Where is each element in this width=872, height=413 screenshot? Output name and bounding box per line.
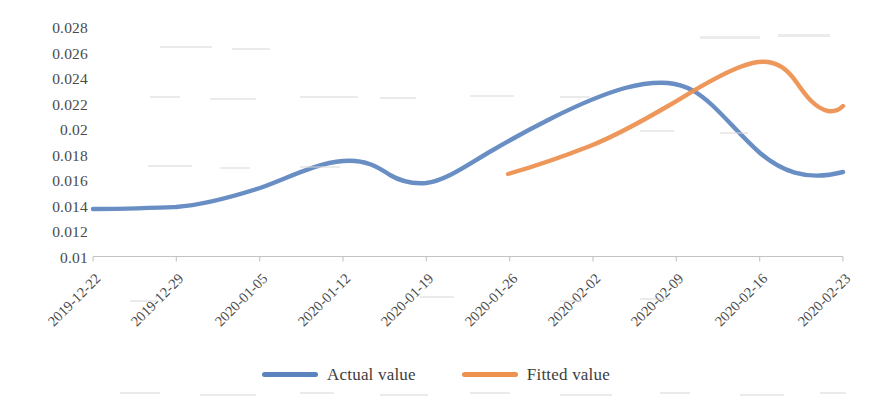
legend-item-fitted-value[interactable]: Fitted value — [462, 366, 610, 383]
legend-swatch-line-icon — [462, 372, 518, 377]
chart-legend: Actual value Fitted value — [0, 366, 872, 383]
line-chart: 0.028 0.026 0.024 0.022 0.02 0.018 0.016… — [0, 0, 872, 413]
legend-swatch-line-icon — [262, 372, 318, 377]
legend-label: Actual value — [327, 366, 416, 383]
legend-label: Fitted value — [527, 366, 610, 383]
x-axis-tick-labels: 2019-12-22 2019-12-29 2020-01-05 2020-01… — [0, 0, 872, 413]
legend-item-actual-value[interactable]: Actual value — [262, 366, 416, 383]
